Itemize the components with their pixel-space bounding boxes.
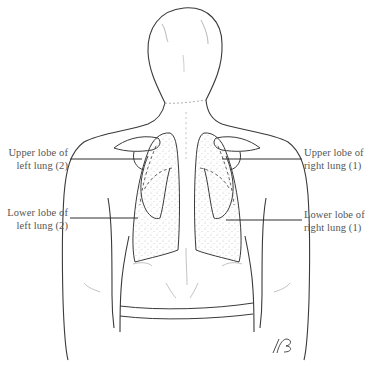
label-lower-lobe-right-lung: Lower lobe of right lung (1) bbox=[304, 208, 374, 234]
leader-lines bbox=[70, 159, 302, 220]
label-line1: Lower lobe of bbox=[0, 206, 68, 219]
label-line1: Upper lobe of bbox=[304, 146, 374, 159]
label-line1: Lower lobe of bbox=[304, 208, 374, 221]
label-line2: right lung (1) bbox=[304, 159, 374, 172]
label-upper-lobe-right-lung: Upper lobe of right lung (1) bbox=[304, 146, 374, 172]
scapulae bbox=[114, 137, 260, 170]
label-line2: right lung (1) bbox=[304, 221, 374, 234]
lung-anatomy-diagram: Upper lobe of left lung (2) Lower lobe o… bbox=[0, 0, 374, 367]
waistband bbox=[120, 303, 253, 319]
left-lung bbox=[133, 133, 180, 262]
head bbox=[148, 8, 222, 103]
torso-illustration bbox=[0, 0, 374, 367]
label-line2: left lung (2) bbox=[0, 159, 68, 172]
label-line2: left lung (2) bbox=[0, 219, 68, 232]
label-lower-lobe-left-lung: Lower lobe of left lung (2) bbox=[0, 206, 68, 232]
label-line1: Upper lobe of bbox=[0, 146, 68, 159]
artist-signature bbox=[273, 339, 291, 353]
right-lung bbox=[195, 133, 242, 262]
muscle-shading bbox=[84, 112, 290, 298]
label-upper-lobe-left-lung: Upper lobe of left lung (2) bbox=[0, 146, 68, 172]
